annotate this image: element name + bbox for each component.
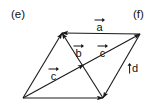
panel-label-e: (e) [11,9,25,21]
panel-label-f: (f) [133,9,144,21]
vector-label-c-upper: c [97,43,108,59]
vector-label-a-letter: a [96,22,102,33]
vector-label-c-upper-letter: c [100,48,106,59]
vector-label-b-letter: b [75,48,81,59]
vector-label-d-letter: d [132,63,138,74]
vector-label-b: b [73,43,84,59]
segment-top-edge-vector-a [62,33,140,34]
vector-parallelogram-figure: (e) (f) a b c c [0,0,155,111]
vector-label-d: d [127,63,138,74]
vector-label-a: a [94,17,105,33]
vector-label-c-lower: c [48,66,59,82]
vector-label-c-lower-letter: c [51,71,57,82]
